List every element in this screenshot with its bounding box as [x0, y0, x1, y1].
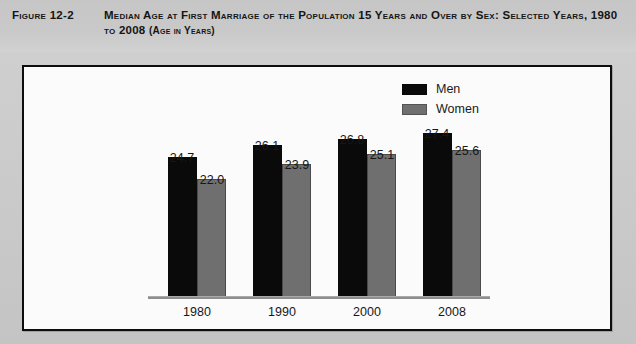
x-tick-label-2000: 2000	[336, 305, 398, 319]
bar-value-men-1990: 26.1	[245, 139, 289, 153]
bars-layer: 24.7 22.0 26.1 23.9 26.8 25.1 27.4 25.6	[24, 67, 610, 329]
plot-area: Men Women 24.7 22.0 26.1 23.9	[24, 67, 610, 329]
figure-number-label: Figure 12-2	[12, 8, 104, 22]
bar-women-1980[interactable]	[197, 179, 226, 297]
figure-header-band: Figure 12-2 Median Age at First Marriage…	[0, 0, 636, 52]
x-axis-line	[148, 296, 490, 299]
x-tick-label-1990: 1990	[251, 305, 313, 319]
bar-women-2000[interactable]	[367, 154, 396, 297]
bar-value-men-2008: 27.4	[415, 127, 459, 141]
bar-men-2000[interactable]	[338, 139, 367, 297]
bar-value-women-2000: 25.1	[360, 148, 404, 162]
x-tick-label-1980: 1980	[166, 305, 228, 319]
bar-value-women-1990: 23.9	[275, 158, 319, 172]
bar-women-1990[interactable]	[282, 164, 311, 297]
bar-value-women-2008: 25.6	[445, 144, 489, 158]
bar-value-men-2000: 26.8	[330, 133, 374, 147]
bar-value-women-1980: 22.0	[190, 173, 234, 187]
bar-value-men-1980: 24.7	[160, 151, 204, 165]
chart-matte: Men Women 24.7 22.0 26.1 23.9	[0, 52, 636, 344]
bar-women-2008[interactable]	[452, 150, 481, 297]
figure-header-inner: Figure 12-2 Median Age at First Marriage…	[12, 8, 622, 38]
figure-title-line-1: Median Age at First Marriage of the Popu…	[104, 9, 549, 21]
x-tick-label-2008: 2008	[421, 305, 483, 319]
figure-title: Median Age at First Marriage of the Popu…	[104, 8, 622, 38]
chart-panel: Men Women 24.7 22.0 26.1 23.9	[22, 65, 612, 331]
figure-title-parenthetical: (Age in Years)	[149, 25, 215, 36]
